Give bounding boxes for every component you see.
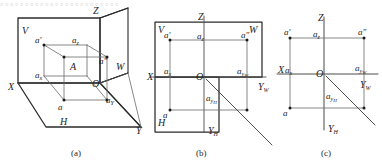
panel-b-az-sub: z	[202, 36, 204, 42]
panel-c-yw-sub: W	[366, 85, 371, 91]
panel-b-label-ayh: ayH	[206, 94, 217, 107]
panel-b-label-axis-x: X	[147, 72, 153, 81]
panel-a-label-az: az	[72, 36, 79, 48]
panel-b-label-az: az	[197, 32, 204, 44]
panel-b-ayw-sub-w: W	[244, 73, 248, 78]
panel-c-ayw-sub: yW	[360, 68, 367, 74]
panel-b-label-origin: O	[196, 72, 203, 81]
panel-c-label-ayh: ayH	[326, 92, 337, 105]
panel-a-label-plane-w: W	[116, 62, 124, 71]
panel-c-label-axis-z: Z	[318, 13, 324, 22]
panel-b-label-a-double-prime: a″	[241, 31, 249, 40]
panel-c-ayh-sub: yH	[331, 96, 337, 102]
panel-c-label-az: az	[313, 30, 320, 42]
panel-a-label-plane-h: H	[60, 117, 67, 126]
projection-figure: 。。。。。。。。。。。。。。。。。。。。。。。。	[0, 0, 382, 166]
panel-b-ayh-sub: yH	[211, 98, 217, 104]
panel-b-label-ax: ax	[164, 67, 171, 79]
panel-b-label-axis-yw: YW	[258, 82, 269, 95]
panel-a-label-axis-y: Y	[136, 126, 142, 135]
panel-c-label-ax: ax	[285, 66, 292, 78]
panel-a-label-origin: O	[92, 79, 99, 88]
panel-b-ayw-sub: yW	[242, 71, 249, 77]
panel-c-label-axis-x: X	[278, 65, 284, 74]
panel-a-ay-sub: Y	[111, 100, 114, 106]
panel-c-label-axis-yw: YW	[360, 80, 371, 93]
panel-b-label-axis-z: Z	[198, 12, 204, 21]
panel-c-az-sub: z	[318, 34, 320, 40]
panel-a-label-a-double-prime: a″	[99, 57, 107, 66]
panel-c-label-a-double-prime: a″	[358, 28, 366, 37]
panel-b-yw-sub: W	[264, 87, 269, 93]
panel-b-label-a-prime: a′	[164, 31, 170, 40]
panel-a-label-a-top: a	[58, 103, 63, 112]
panel-c-ayh-sub-h: H	[333, 98, 337, 103]
panel-c-label-a-prime: a′	[284, 28, 290, 37]
panel-c-label-ayw: ayW	[355, 64, 366, 77]
panel-b-label-ayw: ayW	[237, 67, 248, 80]
caption-b: (b)	[196, 148, 207, 158]
panel-c-ayw-sub-w: W	[362, 70, 366, 75]
panel-b-label-axis-yh: YH	[208, 126, 218, 139]
panel-c-label-a-top: a	[283, 109, 288, 118]
panel-a-label-ax: ax	[35, 71, 42, 83]
panel-a-label-a-prime: a′	[35, 36, 41, 45]
caption-c: (c)	[321, 148, 331, 158]
panel-c-ax-sub: x	[290, 70, 293, 76]
panel-b-label-a-top: a	[163, 111, 168, 120]
panel-c-label-origin: O	[316, 69, 323, 78]
panel-a-label-point-a: A	[70, 62, 76, 71]
panel-b-ayh-sub-h: H	[213, 100, 217, 105]
panel-a-label-plane-v: V	[22, 26, 28, 35]
panel-a-ax-sub: x	[40, 75, 43, 81]
panel-a-label-ay: aY	[106, 96, 114, 108]
caption-a: (a)	[71, 148, 81, 158]
panel-c-label-axis-yh: YH	[328, 124, 338, 137]
panel-a-label-axis-x: X	[8, 82, 14, 91]
figure-linework	[0, 0, 382, 166]
panel-b-ax-sub: x	[169, 71, 172, 77]
panel-a-label-axis-z: Z	[93, 6, 99, 15]
panel-b-yh-sub: H	[214, 131, 218, 137]
panel-b-label-plane-w: W	[249, 25, 257, 34]
panel-a-az-sub: z	[77, 40, 79, 46]
panel-c-yh-sub: H	[334, 129, 338, 135]
